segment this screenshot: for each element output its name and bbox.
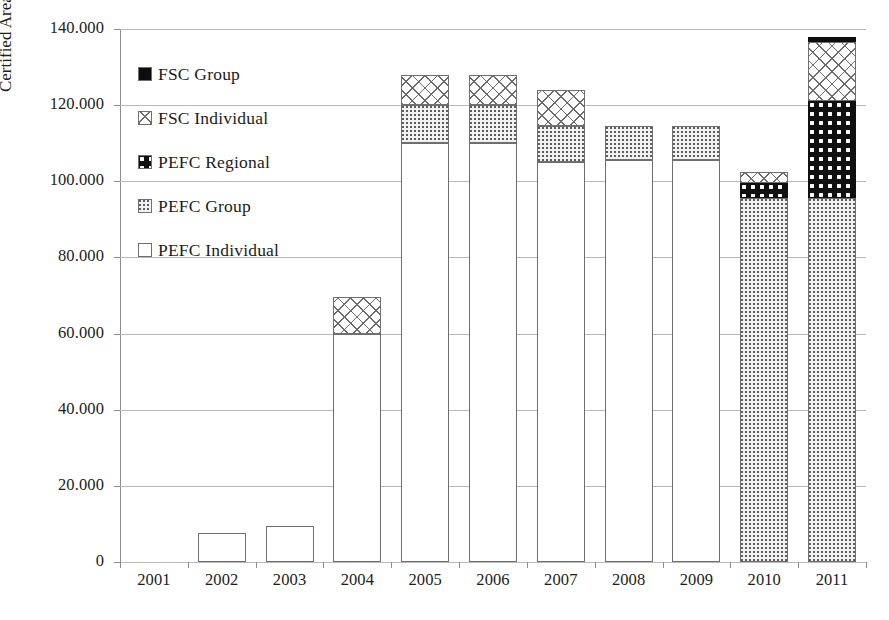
- bar-segment-2005-pefc-group[interactable]: [401, 105, 449, 143]
- legend-swatch-icon: [138, 243, 152, 257]
- bar-segment-2008-pefc-individual[interactable]: [605, 160, 653, 562]
- legend-item-pefc-individual[interactable]: PEFC Individual: [138, 228, 368, 272]
- x-tick-mark: [459, 562, 460, 568]
- y-tick-label: 20.000: [0, 475, 104, 495]
- y-tick-mark: [114, 181, 120, 182]
- x-tick-mark: [188, 562, 189, 568]
- bar-segment-2004-pefc-individual[interactable]: [333, 334, 381, 562]
- legend-swatch-icon: [138, 111, 152, 125]
- x-tick-mark: [256, 562, 257, 568]
- x-tick-mark: [730, 562, 731, 568]
- x-tick-mark: [527, 562, 528, 568]
- y-tick-label: 80.000: [0, 246, 104, 266]
- x-tick-mark: [866, 562, 867, 568]
- bar-segment-2002-pefc-individual[interactable]: [198, 533, 246, 562]
- y-tick-label: 40.000: [0, 399, 104, 419]
- bar-segment-2007-pefc-individual[interactable]: [537, 162, 585, 562]
- bar-segment-2005-fsc-individual[interactable]: [401, 75, 449, 105]
- bar-segment-2009-pefc-individual[interactable]: [672, 160, 720, 562]
- bar-2006[interactable]: [469, 29, 517, 562]
- bar-segment-2010-pefc-regional[interactable]: [740, 183, 788, 198]
- y-tick-mark: [114, 105, 120, 106]
- legend-item-label: PEFC Group: [158, 196, 251, 217]
- bar-segment-2011-pefc-regional[interactable]: [808, 101, 856, 198]
- bar-2011[interactable]: [808, 29, 856, 562]
- x-tick-mark: [663, 562, 664, 568]
- x-tick-mark: [323, 562, 324, 568]
- bar-segment-2009-pefc-group[interactable]: [672, 126, 720, 160]
- y-tick-mark: [114, 334, 120, 335]
- y-tick-label: 100.000: [0, 170, 104, 190]
- x-tick-mark: [391, 562, 392, 568]
- legend-item-fsc-individual[interactable]: FSC Individual: [138, 96, 368, 140]
- y-tick-mark: [114, 410, 120, 411]
- bar-2008[interactable]: [605, 29, 653, 562]
- y-tick-mark: [114, 257, 120, 258]
- certified-area-stacked-bar-chart: Certified Area (hectares) 20012002200320…: [0, 0, 889, 620]
- y-tick-label: 60.000: [0, 323, 104, 343]
- bar-segment-2006-pefc-individual[interactable]: [469, 143, 517, 562]
- x-tick-label-2011: 2011: [792, 570, 872, 590]
- bar-2007[interactable]: [537, 29, 585, 562]
- x-tick-mark: [120, 562, 121, 568]
- bar-segment-2007-pefc-group[interactable]: [537, 126, 585, 162]
- y-tick-mark: [114, 486, 120, 487]
- y-tick-label: 0: [0, 551, 104, 571]
- legend-item-label: FSC Group: [158, 64, 240, 85]
- bar-segment-2010-fsc-individual[interactable]: [740, 172, 788, 183]
- bar-segment-2004-fsc-individual[interactable]: [333, 297, 381, 333]
- bar-2005[interactable]: [401, 29, 449, 562]
- legend-item-fsc-group[interactable]: FSC Group: [138, 52, 368, 96]
- y-tick-label: 120.000: [0, 94, 104, 114]
- y-tick-mark: [114, 29, 120, 30]
- bar-segment-2011-fsc-group[interactable]: [808, 37, 856, 43]
- legend-item-label: FSC Individual: [158, 108, 268, 129]
- legend-item-pefc-group[interactable]: PEFC Group: [138, 184, 368, 228]
- bar-2010[interactable]: [740, 29, 788, 562]
- bar-segment-2008-pefc-group[interactable]: [605, 126, 653, 160]
- bar-segment-2003-pefc-individual[interactable]: [266, 526, 314, 562]
- bar-segment-2011-fsc-individual[interactable]: [808, 42, 856, 101]
- legend-item-pefc-regional[interactable]: PEFC Regional: [138, 140, 368, 184]
- bar-2009[interactable]: [672, 29, 720, 562]
- bar-segment-2007-fsc-individual[interactable]: [537, 90, 585, 126]
- legend-swatch-icon: [138, 199, 152, 213]
- x-axis-ticks: 2001200220032004200520062007200820092010…: [120, 562, 866, 602]
- bar-segment-2006-fsc-individual[interactable]: [469, 75, 517, 105]
- bar-segment-2011-pefc-group[interactable]: [808, 198, 856, 562]
- y-tick-label: 140.000: [0, 18, 104, 38]
- x-tick-mark: [798, 562, 799, 568]
- legend-item-label: PEFC Regional: [158, 152, 270, 173]
- bar-segment-2010-pefc-group[interactable]: [740, 198, 788, 562]
- bar-segment-2005-pefc-individual[interactable]: [401, 143, 449, 562]
- legend: FSC GroupFSC IndividualPEFC RegionalPEFC…: [138, 52, 368, 272]
- legend-swatch-icon: [138, 155, 152, 169]
- bar-segment-2006-pefc-group[interactable]: [469, 105, 517, 143]
- x-tick-mark: [595, 562, 596, 568]
- legend-swatch-icon: [138, 67, 152, 81]
- legend-item-label: PEFC Individual: [158, 240, 279, 261]
